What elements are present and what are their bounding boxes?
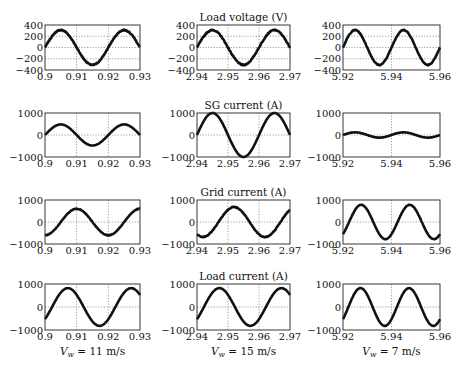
- x-tick-label: 0.91: [66, 331, 88, 342]
- y-tick-label: 0: [37, 217, 43, 228]
- y-tick-label: 1000: [18, 279, 43, 290]
- y-tick-label: 200: [322, 31, 341, 42]
- x-tick-label: 2.97: [279, 71, 301, 82]
- x-tick-label: 2.95: [217, 331, 239, 342]
- y-tick-label: 1000: [316, 108, 341, 119]
- x-tick-label: 5.96: [429, 245, 451, 256]
- x-tick-label: 0.92: [97, 71, 119, 82]
- x-tick-label: 2.96: [248, 331, 270, 342]
- y-tick-label: 1000: [170, 279, 195, 290]
- y-tick-label: −1000: [307, 325, 341, 336]
- y-tick-label: 0: [189, 302, 195, 313]
- y-tick-label: −200: [314, 53, 341, 64]
- y-tick-label: 1000: [18, 195, 43, 206]
- y-tick-label: −1000: [9, 239, 43, 250]
- subplot-r2-c2: 2.942.952.962.9710000−1000SG current (A): [161, 99, 301, 169]
- x-tick-label: 0.93: [129, 331, 151, 342]
- x-tick-label: 0.92: [97, 158, 119, 169]
- subplot-r1-c3: 5.925.945.964002000−200−400: [314, 20, 452, 83]
- y-tick-label: 400: [24, 20, 43, 31]
- y-tick-label: −1000: [161, 152, 195, 163]
- x-tick-label: 2.96: [248, 245, 270, 256]
- x-tick-label: 5.94: [380, 71, 402, 82]
- figure: 0.90.910.920.934002000−200−4002.942.952.…: [0, 0, 460, 375]
- y-tick-label: 1000: [170, 195, 195, 206]
- y-tick-label: 1000: [18, 108, 43, 119]
- series-line: [45, 209, 140, 236]
- x-tick-label: 0.91: [66, 245, 88, 256]
- x-tick-label: 0.91: [66, 158, 88, 169]
- x-tick-label: 2.96: [248, 158, 270, 169]
- y-tick-label: 1000: [170, 108, 195, 119]
- x-tick-label: 0.92: [97, 331, 119, 342]
- x-tick-label: 0.93: [129, 245, 151, 256]
- subplot-r4-c2: 2.942.952.962.9710000−1000Load current (…: [161, 270, 301, 342]
- x-tick-label: 2.97: [279, 158, 301, 169]
- y-tick-label: −400: [16, 65, 43, 76]
- x-tick-label: 5.94: [380, 158, 402, 169]
- y-tick-label: 0: [335, 42, 341, 53]
- subplot-r3-c3: 5.925.945.9610000−1000: [307, 195, 451, 257]
- y-tick-label: 0: [335, 302, 341, 313]
- y-tick-label: −1000: [9, 152, 43, 163]
- y-tick-label: −1000: [161, 325, 195, 336]
- y-tick-label: −1000: [9, 325, 43, 336]
- column-caption: Vw = 7 m/s: [362, 345, 420, 359]
- subplot-r4-c3: 5.925.945.9610000−1000: [307, 279, 451, 343]
- y-tick-label: 0: [37, 130, 43, 141]
- y-tick-label: 0: [335, 217, 341, 228]
- x-tick-label: 0.91: [66, 71, 88, 82]
- x-tick-label: 2.95: [217, 245, 239, 256]
- x-tick-label: 5.96: [429, 331, 451, 342]
- x-tick-label: 2.95: [217, 71, 239, 82]
- column-caption: Vw = 11 m/s: [60, 345, 125, 359]
- y-tick-label: 1000: [316, 195, 341, 206]
- y-tick-label: 400: [322, 20, 341, 31]
- y-tick-label: 0: [189, 130, 195, 141]
- y-tick-label: 0: [189, 217, 195, 228]
- y-tick-label: −1000: [307, 239, 341, 250]
- y-tick-label: 0: [37, 42, 43, 53]
- x-tick-label: 5.94: [380, 331, 402, 342]
- y-tick-label: 1000: [316, 279, 341, 290]
- x-tick-label: 5.94: [380, 245, 402, 256]
- x-tick-label: 2.97: [279, 245, 301, 256]
- x-tick-label: 5.96: [429, 71, 451, 82]
- y-tick-label: 400: [176, 20, 195, 31]
- subplot-r2-c3: 5.925.945.9610000−1000: [307, 108, 451, 170]
- y-tick-label: 200: [176, 31, 195, 42]
- y-tick-label: −200: [16, 53, 43, 64]
- y-tick-label: 200: [24, 31, 43, 42]
- y-tick-label: −1000: [307, 152, 341, 163]
- y-tick-label: −200: [168, 53, 195, 64]
- subplot-r2-c1: 0.90.910.920.9310000−1000: [9, 108, 151, 170]
- x-tick-label: 2.95: [217, 158, 239, 169]
- y-tick-label: −1000: [161, 239, 195, 250]
- y-tick-label: 0: [335, 130, 341, 141]
- x-tick-label: 2.97: [279, 331, 301, 342]
- subplot-title: Load current (A): [199, 270, 288, 282]
- y-tick-label: 0: [189, 42, 195, 53]
- subplot-r3-c2: 2.942.952.962.9710000−1000Grid current (…: [161, 186, 301, 256]
- subplot-r1-c2: 2.942.952.962.974002000−200−400Load volt…: [168, 11, 302, 82]
- y-tick-label: 0: [37, 302, 43, 313]
- x-tick-label: 0.93: [129, 71, 151, 82]
- subplot-title: SG current (A): [205, 99, 283, 111]
- x-tick-label: 5.96: [429, 158, 451, 169]
- x-tick-label: 2.96: [248, 71, 270, 82]
- subplot-title: Load voltage (V): [200, 11, 288, 23]
- subplot-title: Grid current (A): [201, 186, 287, 198]
- subplot-r4-c1: 0.90.910.920.9310000−1000: [9, 279, 151, 343]
- subplot-r1-c1: 0.90.910.920.934002000−200−400: [16, 20, 152, 83]
- y-tick-label: −400: [168, 65, 195, 76]
- column-caption: Vw = 15 m/s: [211, 345, 276, 359]
- subplot-r3-c1: 0.90.910.920.9310000−1000: [9, 195, 151, 257]
- y-tick-label: −400: [314, 65, 341, 76]
- x-tick-label: 0.93: [129, 158, 151, 169]
- x-tick-label: 0.92: [97, 245, 119, 256]
